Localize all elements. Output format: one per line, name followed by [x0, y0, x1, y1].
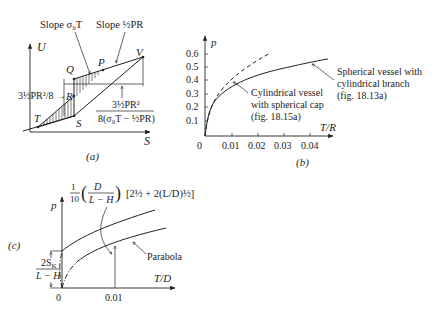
- label-q: Q: [66, 63, 74, 75]
- svg-text:0.1: 0.1: [186, 115, 199, 126]
- label-s: S: [76, 117, 82, 129]
- svg-text:0.2: 0.2: [186, 101, 199, 112]
- panel-a: U S: [18, 19, 155, 163]
- formula-frac-num: D: [93, 181, 102, 192]
- label-t: T: [34, 112, 41, 124]
- svg-text:): ): [115, 183, 121, 204]
- point-t: [37, 126, 40, 129]
- slope-half-pr-label: Slope ½PR: [96, 19, 143, 30]
- origin-label: 0: [197, 140, 202, 151]
- point-r: [73, 95, 76, 98]
- cyl-label-line1: Cylindrical vessel: [251, 87, 323, 98]
- point-p: [102, 69, 105, 72]
- formula-ten: 10: [70, 194, 80, 204]
- formula-frac-den: L − H: [88, 194, 114, 205]
- s-axis-label: S: [144, 134, 150, 148]
- panel-c: p T/D 0 0.01 2SK L − H 1 10 ( D L − H ) …: [8, 181, 194, 303]
- left-annotation: 3½PR²/8 →: [18, 90, 66, 101]
- panel-b: p T/R 0 0.6 0.5 0.4 0.3 0.2 0.1 0.01 0.0…: [186, 36, 422, 169]
- parabola-leader: [133, 242, 146, 254]
- fraction-denominator: 8(σ₀T − ½PR): [98, 113, 155, 125]
- svg-text:0.3: 0.3: [186, 88, 199, 99]
- point-s: [73, 115, 76, 118]
- formula: 1 10 ( D L − H ) [2½ + 2(L/D)½]: [70, 181, 194, 205]
- sph-label-line2: cylindrical branch: [337, 78, 409, 89]
- svg-text:0.03: 0.03: [274, 140, 292, 151]
- p-axis-label: p: [210, 36, 217, 48]
- intercept-num: 2SK: [41, 257, 57, 270]
- intercept-den: L − H: [35, 270, 61, 281]
- cyl-label-line2: with spherical cap: [251, 99, 324, 110]
- svg-text:0.4: 0.4: [186, 74, 199, 85]
- formula-one: 1: [71, 182, 76, 192]
- line-q-v: [74, 57, 143, 79]
- svg-text:0.01: 0.01: [222, 140, 240, 151]
- u-axis-label: U: [37, 40, 47, 54]
- svg-text:(: (: [81, 183, 87, 204]
- svg-text:0.04: 0.04: [301, 140, 319, 151]
- fraction-numerator: 3½PR²: [112, 99, 140, 110]
- sph-label-line3: (fig. 18.13a): [337, 90, 387, 102]
- tr-axis-label: T/R: [320, 121, 336, 133]
- lower-curve-extrap: [62, 261, 78, 288]
- sph-label-line1: Spherical vessel with: [337, 66, 422, 77]
- td-axis-label: T/D: [154, 272, 171, 284]
- point-q: [73, 78, 76, 81]
- origin-label-c: 0: [56, 292, 61, 303]
- cyl-label-line3: (fig. 18.15a): [251, 111, 301, 123]
- formula-bracket: [2½ + 2(L/D)½]: [126, 188, 194, 200]
- svg-text:0.5: 0.5: [186, 61, 199, 72]
- caption-b: (b): [296, 156, 309, 169]
- label-r: R: [65, 90, 73, 102]
- caption-a: (a): [86, 150, 99, 163]
- x-tick-001: 0.01: [105, 292, 123, 303]
- cyl-leader: [233, 82, 248, 93]
- parabola-label: Parabola: [147, 251, 183, 262]
- slope-sigma-label: Slope σ₀T: [40, 19, 83, 30]
- caption-c: (c): [8, 239, 21, 252]
- figure-canvas: U S: [0, 0, 435, 319]
- label-p: P: [97, 56, 105, 68]
- p-axis-label-c: p: [50, 199, 57, 211]
- svg-text:0.6: 0.6: [186, 48, 199, 59]
- slope-sigma-leader: [75, 32, 90, 74]
- svg-text:0.02: 0.02: [248, 140, 266, 151]
- sph-leader: [312, 64, 334, 80]
- slope-pr-leader: [116, 32, 125, 63]
